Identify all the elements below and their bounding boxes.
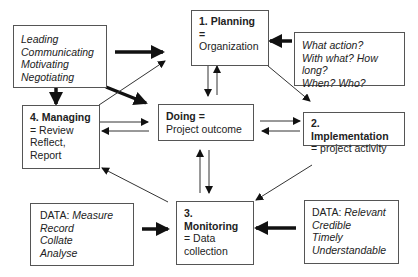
skill-communicating: Communicating <box>21 46 99 59</box>
planning-title: 1. Planning = <box>199 15 261 40</box>
data-right-prefix: DATA: <box>312 206 344 218</box>
data-right-timely: Timely <box>312 231 391 244</box>
data-right-relevant: Relevant <box>344 206 385 218</box>
data-right-credible: Credible <box>312 219 391 232</box>
planning-box: 1. Planning = Organization <box>191 10 269 66</box>
data-right-first-line: DATA: Relevant <box>312 206 391 219</box>
diagram-canvas: Leading Communicating Motivating Negotia… <box>0 0 418 277</box>
managing-line-1: = Review <box>30 124 92 137</box>
managing-line-2: Reflect, <box>30 136 92 149</box>
monitoring-line-1: = Data <box>184 232 246 245</box>
question-1: What action? <box>302 39 397 52</box>
data-left-prefix: DATA: <box>40 209 72 221</box>
skill-leading: Leading <box>21 33 99 46</box>
data-left-first-line: DATA: Measure <box>40 209 126 222</box>
arrow-skills-to-doing <box>106 87 146 103</box>
skill-motivating: Motivating <box>21 58 99 71</box>
data-left-measure: Measure <box>72 209 113 221</box>
planning-subtitle: Organization <box>199 40 261 53</box>
managing-title: 4. Managing <box>30 111 92 124</box>
data-left-collate: Collate <box>40 234 126 247</box>
doing-subtitle: Project outcome <box>166 123 246 136</box>
arrow-implementation-to-monitoring <box>256 165 312 200</box>
data-right-box: DATA: Relevant Credible Timely Understan… <box>304 200 399 264</box>
doing-title: Doing = <box>166 110 246 123</box>
managing-box: 4. Managing = Review Reflect, Report <box>22 105 100 169</box>
implementation-box: 2. Implementation = project activity <box>303 112 405 146</box>
monitoring-title: 3. Monitoring <box>184 207 246 232</box>
data-left-record: Record <box>40 222 126 235</box>
question-2: With what? How long? <box>302 52 397 77</box>
monitoring-box: 3. Monitoring = Data collection <box>176 201 254 265</box>
data-left-analyse: Analyse <box>40 247 126 260</box>
monitoring-line-2: collection <box>184 245 246 258</box>
question-3: When? Who? <box>302 77 397 90</box>
doing-box: Doing = Project outcome <box>158 104 254 141</box>
skills-box: Leading Communicating Motivating Negotia… <box>13 25 107 88</box>
implementation-title: 2. Implementation <box>311 117 397 142</box>
data-right-understandable: Understandable <box>312 244 391 257</box>
data-left-box: DATA: Measure Record Collate Analyse <box>30 203 134 266</box>
managing-line-3: Report <box>30 149 92 162</box>
skill-negotiating: Negotiating <box>21 71 99 84</box>
questions-box: What action? With what? How long? When? … <box>294 32 405 86</box>
implementation-subtitle: = project activity <box>311 142 397 155</box>
arrow-monitoring-to-managing <box>102 168 168 202</box>
